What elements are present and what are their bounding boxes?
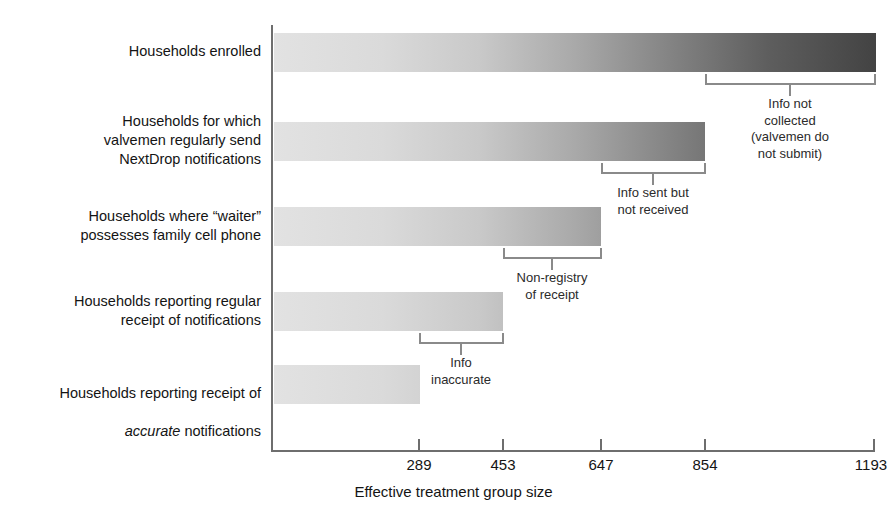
bracket-stem-info-not-collected: [789, 85, 791, 96]
bar-accurate-receipt: [274, 365, 420, 404]
bar-regular-receipt: [274, 292, 503, 331]
bar-households-enrolled: [274, 33, 876, 72]
category-label-accurate-line2: notifications: [180, 423, 261, 439]
x-axis-line: [271, 450, 875, 452]
annotation-info-not-collected: Info not collected (valvemen do not subm…: [748, 96, 833, 162]
category-label-accurate-emphasis: accurate: [125, 423, 181, 439]
annotation-info-sent-not-received: Info sent but not received: [617, 185, 689, 218]
bracket-stem-non-registry-of-receipt: [551, 259, 553, 270]
annotation-non-registry-of-receipt: Non-registry of receipt: [517, 270, 588, 303]
x-axis-tick-1193: [873, 439, 875, 452]
x-axis-title: Effective treatment group size: [354, 483, 552, 500]
x-axis-tick-453: [502, 439, 504, 452]
category-label-valvemen-send-notifications: Households for which valvemen regularly …: [0, 112, 261, 169]
annotation-info-inaccurate: Info inaccurate: [431, 355, 491, 388]
x-axis-tick-854: [704, 439, 706, 452]
category-label-regular-receipt: Households reporting regular receipt of …: [0, 292, 261, 330]
x-axis-tick-label-453: 453: [490, 456, 515, 473]
x-axis-title-wrapper: Effective treatment group size: [0, 483, 891, 500]
bracket-info-sent-not-received: [601, 163, 706, 174]
x-axis-tick-647: [600, 439, 602, 452]
category-label-households-enrolled: Households enrolled: [0, 42, 261, 61]
bar-waiter-cell-phone: [274, 207, 601, 246]
horizontal-bar-chart: Households enrolled Households for which…: [0, 0, 891, 527]
category-label-accurate-receipt: Households reporting receipt of accurate…: [0, 365, 261, 441]
x-axis-tick-label-1193: 1193: [855, 456, 887, 473]
bracket-stem-info-sent-not-received: [652, 174, 654, 185]
bracket-info-not-collected: [705, 74, 876, 85]
category-label-accurate-line1: Households reporting receipt of: [59, 385, 261, 401]
category-label-waiter-cell-phone: Households where “waiter” possesses fami…: [0, 207, 261, 245]
bracket-non-registry-of-receipt: [503, 248, 602, 259]
bar-valvemen-send-notifications: [274, 122, 705, 161]
bracket-info-inaccurate: [419, 333, 504, 344]
x-axis-tick-289: [418, 439, 420, 452]
x-axis-tick-label-854: 854: [692, 456, 717, 473]
y-axis-line: [271, 25, 273, 450]
plot-area: 289 453 647 854 1193 Info not collected …: [271, 18, 875, 452]
x-axis-tick-label-289: 289: [406, 456, 431, 473]
bracket-stem-info-inaccurate: [460, 344, 462, 355]
x-axis-tick-label-647: 647: [588, 456, 613, 473]
